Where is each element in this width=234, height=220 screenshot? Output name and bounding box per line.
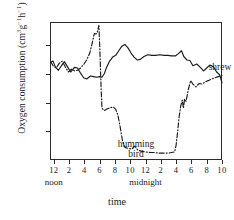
y-axis-title-sup2: −1 xyxy=(15,18,22,25)
x-axis-title: time xyxy=(0,196,234,207)
annotation-humming-bird-line2: bird xyxy=(108,150,164,160)
y-axis-title-mid2: h xyxy=(17,13,27,18)
x-tick-mark xyxy=(54,160,55,164)
x-tick-mark xyxy=(100,160,101,164)
y-tick-mark xyxy=(46,74,50,75)
y-axis-title-mid: g xyxy=(17,25,27,30)
series-line-shrew xyxy=(51,44,222,83)
x-tick-mark xyxy=(207,160,208,164)
x-tick-mark xyxy=(222,160,223,164)
x-tick-mark xyxy=(191,160,192,164)
y-tick-mark xyxy=(46,45,50,46)
x-tick-mark xyxy=(69,160,70,164)
y-axis-title-sup3: −1 xyxy=(15,6,22,13)
x-tick-mark xyxy=(161,160,162,164)
y-tick-mark xyxy=(46,131,50,132)
x-tick-mark xyxy=(115,160,116,164)
x-tick-mark xyxy=(176,160,177,164)
y-tick-mark xyxy=(46,103,50,104)
x-tick-label-11: 10 xyxy=(212,165,232,175)
x-tick-mark xyxy=(84,160,85,164)
y-axis-title-main: Oxygen consumption (cm xyxy=(17,33,27,134)
annotation-humming-bird: humming bird xyxy=(108,140,164,159)
y-axis-title-sup1: 3 xyxy=(15,30,22,33)
plot-area: shrew humming bird 5101520 1224681012246… xyxy=(50,22,222,160)
x-axis-sublabel-midnight: midnight xyxy=(116,177,176,187)
annotation-shrew: shrew xyxy=(198,63,234,73)
chart-figure: Oxygen consumption (cm3g−1h−1) shrew hum… xyxy=(0,0,234,220)
x-axis-sublabel-noon: noon xyxy=(24,177,84,187)
x-tick-mark xyxy=(130,160,131,164)
y-axis-title-close: ) xyxy=(17,2,27,5)
series-line-humming-bird xyxy=(51,25,222,153)
y-axis-title: Oxygen consumption (cm3g−1h−1) xyxy=(15,0,27,143)
x-tick-mark xyxy=(146,160,147,164)
